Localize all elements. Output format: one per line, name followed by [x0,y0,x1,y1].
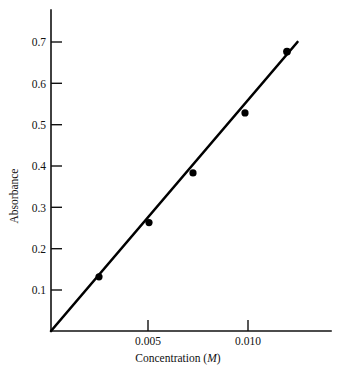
x-axis-title-close: ) [217,352,221,365]
x-tick-label: 0.010 [235,335,261,347]
x-axis-title-text: Concentration ( [135,352,207,365]
data-point [95,273,102,280]
y-axis-ticks [51,42,62,290]
x-axis-ticks [148,320,248,331]
data-point [189,169,196,176]
data-point [241,109,248,116]
y-tick-label: 0.6 [32,78,47,90]
plot-area: 0.7 0.6 0.5 0.4 0.3 0.2 0.1 0.005 0.010 [0,0,342,370]
x-axis-title: Concentration (M) [135,352,220,365]
y-tick-label: 0.3 [32,202,47,214]
calibration-curve-figure: 0.7 0.6 0.5 0.4 0.3 0.2 0.1 0.005 0.010 [0,0,342,370]
data-point [145,219,152,226]
y-tick-label: 0.2 [32,243,47,255]
y-tick-label: 0.4 [32,160,47,172]
y-tick-label: 0.5 [32,119,47,131]
y-tick-label: 0.7 [32,36,47,48]
best-fit-line [51,42,298,331]
y-axis-title: Absorbance [8,169,20,224]
y-tick-label: 0.1 [32,284,47,296]
y-axis-tick-labels: 0.7 0.6 0.5 0.4 0.3 0.2 0.1 [32,36,47,296]
x-tick-label: 0.005 [135,335,161,347]
data-point [283,48,291,56]
x-axis-tick-labels: 0.005 0.010 [135,335,261,347]
